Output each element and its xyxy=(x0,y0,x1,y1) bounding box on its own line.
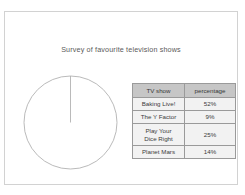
cell-percentage: 14% xyxy=(185,146,236,159)
page-title: Survey of favourite television shows xyxy=(5,45,237,54)
column-header-tv-show: TV show xyxy=(133,84,185,98)
cell-tv-show-line-2: Dice Right xyxy=(133,135,184,142)
table-header-row: TV show percentage xyxy=(133,84,236,98)
table-row: The Y Factor 9% xyxy=(133,111,236,124)
cell-percentage: 25% xyxy=(185,124,236,146)
cell-tv-show: The Y Factor xyxy=(133,111,185,124)
table-row: Baking Live! 52% xyxy=(133,98,236,111)
pie-chart xyxy=(23,75,118,170)
survey-data-table: TV show percentage Baking Live! 52% The … xyxy=(132,83,236,159)
cell-tv-show: Play Your Dice Right xyxy=(133,124,185,146)
column-header-percentage: percentage xyxy=(185,84,236,98)
cell-tv-show: Planet Mars xyxy=(133,146,185,159)
cell-tv-show: Baking Live! xyxy=(133,98,185,111)
slide-frame: Survey of favourite television shows TV … xyxy=(4,11,238,185)
table-row: Play Your Dice Right 25% xyxy=(133,124,236,146)
cell-percentage: 52% xyxy=(185,98,236,111)
cell-percentage: 9% xyxy=(185,111,236,124)
table-row: Planet Mars 14% xyxy=(133,146,236,159)
cell-tv-show-line-1: Play Your xyxy=(133,127,184,134)
